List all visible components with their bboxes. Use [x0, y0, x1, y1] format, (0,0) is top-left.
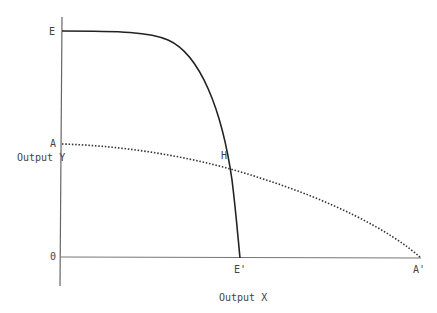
point-label-e: E [49, 27, 55, 37]
point-label-h: H [221, 151, 227, 161]
origin-label: 0 [50, 252, 56, 262]
ppf-diagram [0, 0, 437, 313]
curve-aa-prime [62, 144, 421, 258]
point-label-a: A [50, 139, 56, 149]
point-label-e-prime: E' [234, 265, 246, 275]
x-axis-label: Output X [219, 293, 267, 303]
point-label-a-prime: A' [413, 265, 425, 275]
y-axis-label: Output Y [17, 153, 65, 163]
